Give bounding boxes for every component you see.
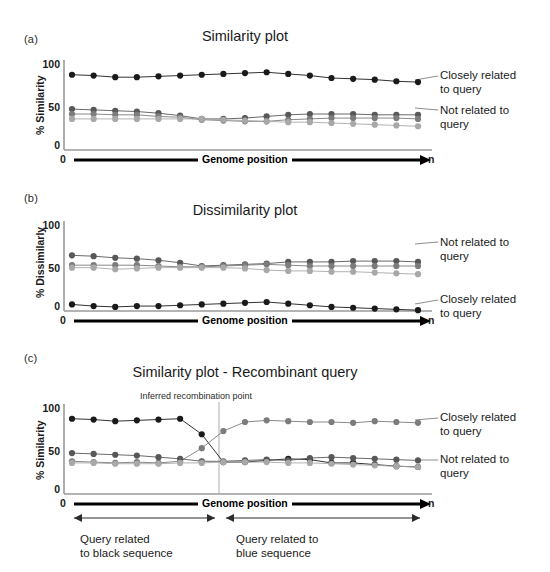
data-point (328, 304, 334, 310)
data-point (350, 76, 356, 82)
data-point (393, 419, 399, 425)
data-point (134, 417, 140, 423)
data-point (112, 266, 118, 272)
panel-c-region-right-line1: Query related to (236, 532, 318, 546)
data-point (69, 460, 75, 466)
data-point (415, 263, 421, 269)
data-point (264, 267, 270, 273)
data-point (393, 463, 399, 469)
data-point (307, 268, 313, 274)
data-point (69, 72, 75, 78)
data-point (155, 454, 161, 460)
data-point (177, 460, 183, 466)
data-point (134, 303, 140, 309)
data-point (91, 451, 97, 457)
data-point (307, 72, 313, 78)
data-point (350, 121, 356, 127)
data-point (285, 262, 291, 268)
data-point (264, 118, 270, 124)
panel-c-label-not-line1: Not related to (440, 452, 509, 466)
data-point (393, 78, 399, 84)
data-point (242, 419, 248, 425)
data-point (69, 265, 75, 271)
data-point (393, 115, 399, 121)
data-point (134, 116, 140, 122)
data-point (372, 418, 378, 424)
panel-b-label-closely-related: Closely related to query (440, 292, 516, 320)
data-point (177, 302, 183, 308)
data-point (264, 69, 270, 75)
data-point (415, 457, 421, 463)
data-point (134, 452, 140, 458)
data-point (199, 116, 205, 122)
data-point (112, 304, 118, 310)
data-point (177, 72, 183, 78)
data-point (134, 256, 140, 262)
data-point (328, 269, 334, 275)
data-point (155, 116, 161, 122)
data-point (328, 461, 334, 467)
panel-b-x-axis-title: Genome position (198, 314, 292, 326)
data-point (112, 116, 118, 122)
panel-b-x-end: n (428, 314, 434, 326)
panel-c-region-left-line2: to black sequence (80, 546, 173, 560)
data-point (415, 464, 421, 470)
data-point (177, 416, 183, 422)
data-point (350, 115, 356, 121)
data-point (155, 303, 161, 309)
data-point (242, 265, 248, 271)
data-point (134, 461, 140, 467)
data-point (372, 115, 378, 121)
data-point (415, 307, 421, 313)
panel-c-x-start: 0 (60, 497, 66, 509)
panel-a-x-axis-title: Genome position (198, 153, 292, 165)
figure-root: (a) Similarity plot % Similarity 100 50 … (0, 0, 550, 572)
data-point (415, 271, 421, 277)
panel-c-label-closely-related: Closely related to query (440, 410, 516, 438)
data-point (328, 454, 334, 460)
data-point (350, 263, 356, 269)
data-point (91, 265, 97, 271)
data-point (393, 122, 399, 128)
data-point (372, 77, 378, 83)
data-point (285, 301, 291, 307)
data-point (372, 305, 378, 311)
data-point (91, 72, 97, 78)
data-point (264, 459, 270, 465)
data-point (307, 302, 313, 308)
data-point (220, 459, 226, 465)
data-point (199, 72, 205, 78)
data-point (242, 117, 248, 123)
data-point (242, 300, 248, 306)
panel-b-label-not-related: Not related to query (440, 235, 509, 263)
data-point (264, 299, 270, 305)
data-point (350, 455, 356, 461)
panel-c-label-closely-line1: Closely related (440, 410, 516, 424)
panel-a-x-start: 0 (60, 153, 66, 165)
panel-a-label-closely-related: Closely related to query (440, 68, 516, 96)
data-point (372, 122, 378, 128)
data-point (155, 416, 161, 422)
data-point (242, 459, 248, 465)
data-point (328, 120, 334, 126)
data-point (242, 70, 248, 76)
panel-b: (b) Dissimilarity plot % Dissimilarly 10… (0, 180, 550, 352)
data-point (177, 265, 183, 271)
panel-c-region-right-label: Query related to blue sequence (236, 532, 318, 560)
data-point (264, 417, 270, 423)
panel-b-label-closely-line1: Closely related (440, 292, 516, 306)
data-point (69, 416, 75, 422)
panel-a: (a) Similarity plot % Similarity 100 50 … (0, 0, 550, 180)
data-point (91, 253, 97, 259)
panel-c: (c) Similarity plot - Recombinant query … (0, 352, 550, 572)
panel-a-label-not-related: Not related to query (440, 103, 509, 131)
data-point (393, 457, 399, 463)
panel-a-label-closely-line1: Closely related (440, 68, 516, 82)
data-point (285, 268, 291, 274)
data-point (307, 419, 313, 425)
data-point (91, 416, 97, 422)
data-point (372, 462, 378, 468)
data-point (199, 301, 205, 307)
data-point (393, 306, 399, 312)
panel-c-region-left-label: Query related to black sequence (80, 532, 173, 560)
